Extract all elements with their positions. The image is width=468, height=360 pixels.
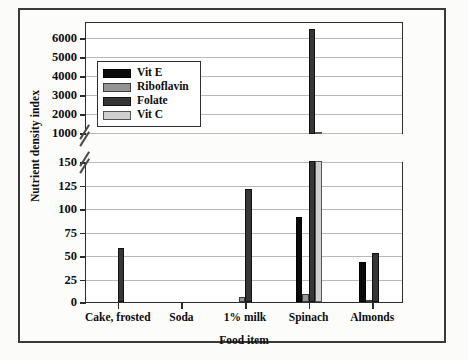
- gridline: [86, 280, 402, 281]
- x-category-label: 1% milk: [224, 311, 267, 323]
- y-tick-label: 3000: [52, 88, 77, 103]
- y-tick: [80, 114, 86, 116]
- gridline: [86, 233, 402, 234]
- x-tick: [245, 302, 247, 309]
- legend-label-vit-c: Vit C: [137, 109, 163, 121]
- bar-vit-e: [359, 262, 366, 302]
- gridline: [86, 133, 402, 134]
- y-tick: [80, 95, 86, 97]
- y-tick-label: 5000: [52, 50, 77, 65]
- x-tick: [309, 302, 311, 309]
- legend-label-folate: Folate: [137, 95, 168, 107]
- y-tick: [80, 209, 86, 211]
- y-tick-label: 0: [71, 295, 77, 310]
- legend-swatch-vit-c: [103, 111, 131, 120]
- x-category-label: Cake, frosted: [85, 311, 151, 323]
- y-tick-label: 4000: [52, 69, 77, 84]
- legend-item: Folate: [103, 94, 195, 108]
- legend-label-riboflavin: Riboflavin: [137, 81, 189, 93]
- y-tick-label: 50: [65, 249, 78, 264]
- y-tick: [80, 38, 86, 40]
- x-axis-title: Food item: [85, 334, 403, 346]
- x-tick: [181, 302, 183, 309]
- gridline: [86, 57, 402, 58]
- x-tick: [372, 302, 374, 309]
- bar-folate: [245, 189, 252, 302]
- gridline: [86, 256, 402, 257]
- y-tick: [80, 233, 86, 235]
- y-tick: [80, 280, 86, 282]
- y-tick-label: 150: [58, 155, 77, 170]
- gridline: [86, 38, 402, 39]
- x-tick: [118, 302, 120, 309]
- y-tick-label: 6000: [52, 31, 77, 46]
- gridline: [86, 186, 402, 187]
- y-tick-label: 100: [58, 202, 77, 217]
- y-tick-label: 25: [65, 272, 78, 287]
- y-tick: [80, 57, 86, 59]
- bar-folate-upper: [309, 29, 316, 134]
- legend-label-vit-e: Vit E: [137, 67, 162, 79]
- bar-vit-c: [315, 161, 322, 302]
- legend-item: Vit C: [103, 108, 195, 122]
- legend-swatch-riboflavin: [103, 83, 131, 92]
- y-tick: [80, 76, 86, 78]
- legend-item: Vit E: [103, 66, 195, 80]
- x-category-label: Spinach: [289, 311, 329, 323]
- bar-folate: [372, 253, 379, 302]
- legend: Vit E Riboflavin Folate Vit C: [97, 61, 201, 127]
- y-axis-title: Nutrient density index: [29, 51, 41, 241]
- legend-item: Riboflavin: [103, 80, 195, 94]
- x-category-label: Soda: [169, 311, 193, 323]
- x-category-label: Almonds: [350, 311, 394, 323]
- y-tick: [80, 302, 86, 304]
- y-tick-label: 2000: [52, 107, 77, 122]
- gridline: [86, 162, 402, 163]
- bar-vit-c-upper: [315, 132, 322, 134]
- legend-swatch-folate: [103, 97, 131, 106]
- y-tick-label: 75: [65, 225, 78, 240]
- y-tick-label: 1000: [52, 126, 77, 141]
- gridline: [86, 209, 402, 210]
- figure-container: Nutrient density index 60005000400030002…: [0, 0, 468, 360]
- y-tick: [80, 186, 86, 188]
- bar-vit-e: [296, 217, 303, 302]
- legend-swatch-vit-e: [103, 69, 131, 78]
- y-tick-label: 125: [58, 178, 77, 193]
- bar-folate: [118, 248, 125, 302]
- plot-panel-lower: 1501251007550250Cake, frostedSoda1% milk…: [85, 162, 403, 303]
- y-tick: [80, 256, 86, 258]
